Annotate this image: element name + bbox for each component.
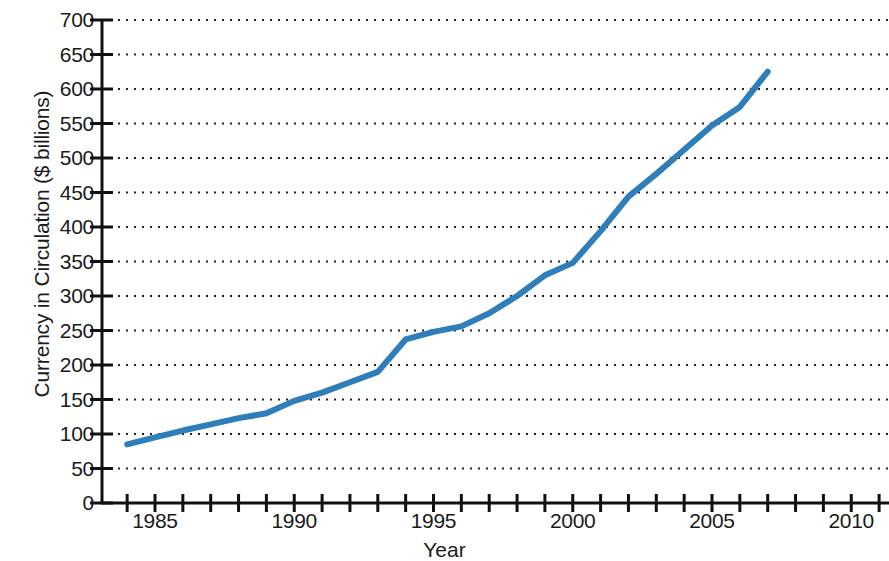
chart-container: Currency in Circulation ($ billions) 050… [0,0,889,561]
x-tick-label: 2000 [528,509,618,533]
gridlines [102,20,889,469]
plot-area [0,0,889,561]
data-series-line [127,72,768,445]
x-tick-label: 1990 [249,509,339,533]
x-axis-title: Year [0,538,889,561]
x-tick-label: 2005 [667,509,757,533]
x-tick-label: 1995 [389,509,479,533]
x-tick-label: 1985 [110,509,200,533]
x-tick-label: 2010 [806,509,889,533]
